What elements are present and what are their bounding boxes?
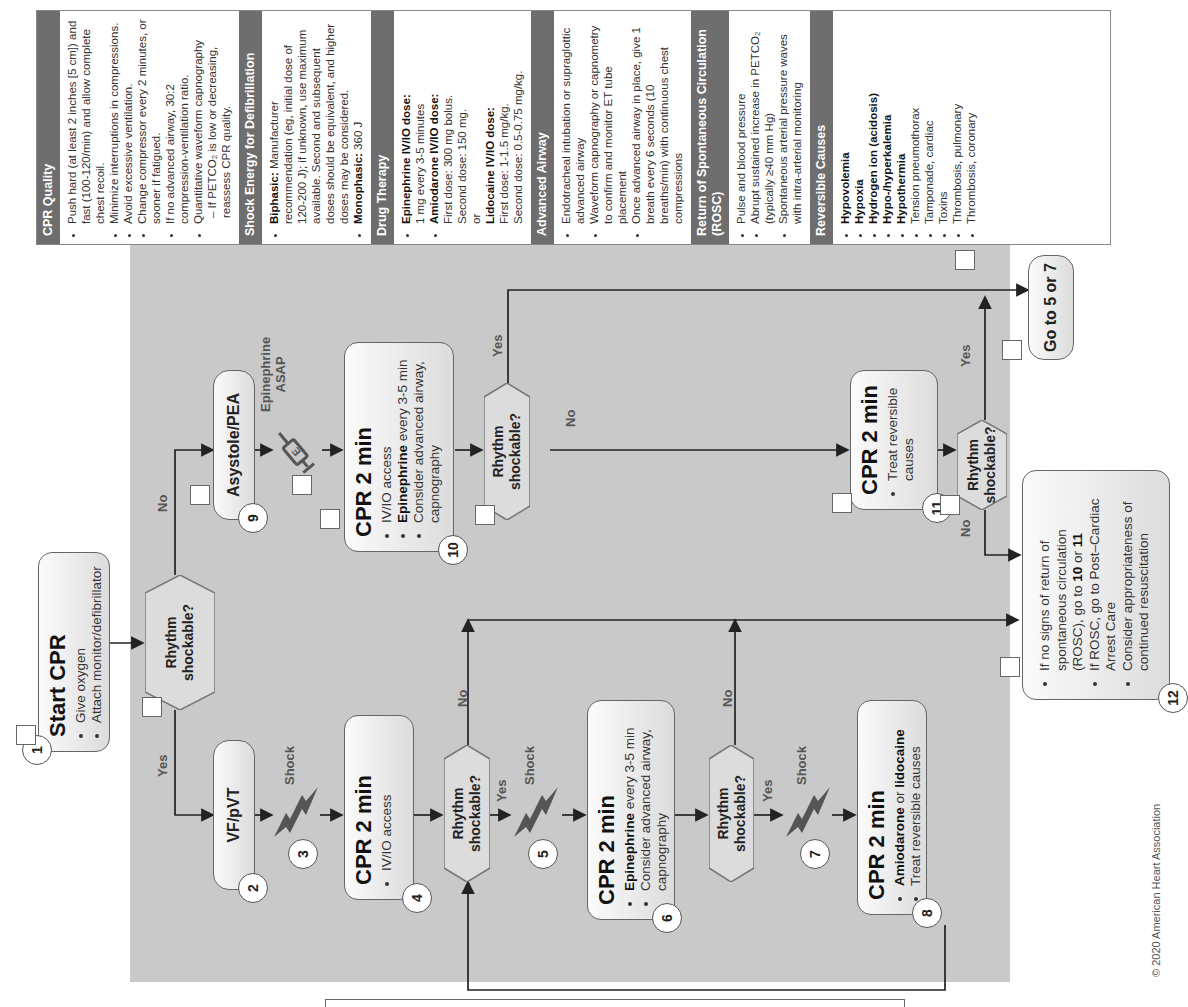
node-go-to-5-or-7: Go to 5 or 7 [1028, 255, 1074, 360]
node-cpr-11: CPR 2 min Treat reversible causes [850, 370, 938, 510]
shock-label-3: Shock [282, 746, 297, 785]
syringe-icon: E [272, 420, 322, 475]
checkbox-reversible-causes[interactable] [955, 250, 975, 270]
step-badge-7: 7 [800, 839, 830, 869]
node-cpr-6: CPR 2 min Epinephrine every 3-5 min Cons… [587, 700, 675, 920]
step-badge-4: 4 [402, 883, 432, 913]
step-badge-6: 6 [652, 903, 682, 933]
checkbox-step-11[interactable] [832, 493, 852, 513]
node-12-rosc-check: If no signs of return of spontaneous cir… [1022, 470, 1170, 700]
node-asystole-pea: Asystole/PEA [213, 370, 255, 520]
step-badge-10: 10 [438, 535, 468, 565]
decision-rhythm-shockable-1: Rhythmshockable? [145, 575, 215, 710]
decision-rhythm-shockable-3: Rhythmshockable? [709, 745, 754, 882]
no-label: No [563, 410, 578, 427]
shock-icon-7 [784, 785, 832, 845]
checkbox-go-to[interactable] [1002, 340, 1022, 360]
node-vf-pvt: VF/pVT [213, 740, 255, 890]
vf-pvt-title: VF/pVT [225, 787, 243, 842]
yes-label: Yes [490, 335, 505, 357]
empty-frame [325, 999, 905, 1007]
yes-label: Yes [958, 345, 973, 367]
checkbox-step-9[interactable] [190, 485, 210, 505]
checkbox-step-10[interactable] [320, 509, 340, 529]
reversible-causes-header: Reversible Causes [810, 11, 833, 244]
shock-icon-5 [512, 785, 560, 845]
checkbox-decision-5[interactable] [940, 495, 960, 515]
rosc-header: Return of Spontaneous Circulation (ROSC) [691, 11, 729, 244]
shock-label-5: Shock [522, 746, 537, 785]
step-badge-2: 2 [238, 873, 268, 903]
step-badge-8: 8 [912, 898, 942, 928]
yes-label: Yes [155, 755, 170, 777]
advanced-airway-header: Advanced Airway [531, 11, 554, 244]
no-label: No [455, 690, 470, 707]
start-cpr-title: Start CPR [45, 563, 71, 737]
decision-rhythm-shockable-5: Rhythmshockable? [957, 420, 1007, 510]
decision-rhythm-shockable-4: Rhythmshockable? [484, 383, 530, 520]
shock-energy-header: Shock Energy for Defibrillation [239, 11, 262, 244]
cpr-quality-header: CPR Quality [37, 11, 60, 244]
checkbox-step-1[interactable] [16, 725, 36, 745]
copyright-text: © 2020 American Heart Association [1150, 804, 1162, 977]
start-cpr-bullet: Give oxygen [73, 563, 89, 723]
node-start-cpr: Start CPR Give oxygen Attach monitor/def… [38, 552, 110, 752]
yes-label: Yes [760, 780, 775, 802]
reference-panel: CPR Quality Push hard (at least 2 inches… [36, 10, 1111, 245]
step-badge-3: 3 [288, 839, 318, 869]
node-cpr-4: CPR 2 min IV/IO access [344, 715, 414, 900]
node-cpr-10: CPR 2 min IV/IO access Epinephrine every… [344, 342, 454, 552]
step-badge-9: 9 [238, 503, 268, 533]
drug-therapy-header: Drug Therapy [371, 11, 394, 244]
no-label: No [958, 520, 973, 537]
no-label: No [155, 495, 170, 512]
checkbox-epinephrine[interactable] [292, 475, 312, 495]
epinephrine-asap-label: EpinephrineASAP [258, 337, 288, 412]
no-label: No [720, 690, 735, 707]
node-cpr-8: CPR 2 min Amiodarone or lidocaine Treat … [857, 700, 927, 915]
start-cpr-bullet: Attach monitor/defibrillator [89, 563, 105, 723]
checkbox-decision-1[interactable] [142, 697, 162, 717]
yes-label: Yes [494, 780, 509, 802]
step-badge-5: 5 [528, 839, 558, 869]
checkbox-step-12[interactable] [1000, 657, 1020, 677]
shock-label-7: Shock [794, 746, 809, 785]
decision-rhythm-shockable-2: Rhythmshockable? [444, 745, 490, 882]
step-badge-12: 12 [1158, 683, 1188, 713]
shock-icon-3 [272, 785, 320, 845]
checkbox-decision-4[interactable] [475, 505, 495, 525]
